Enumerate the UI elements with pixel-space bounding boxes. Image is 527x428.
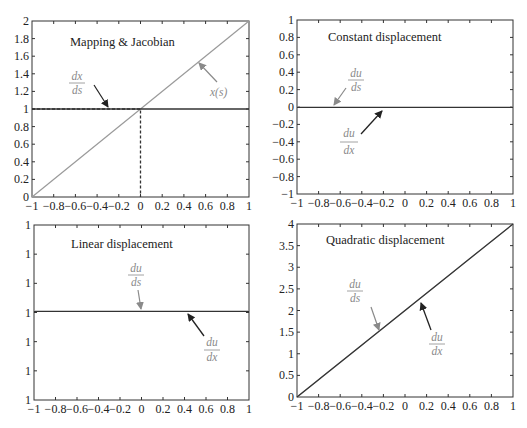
y-tick-label: 1	[25, 306, 31, 320]
y-tick-label: 2	[23, 14, 29, 28]
annotation-dx-bottom: dx	[432, 345, 444, 357]
y-tick-label: 0.4	[14, 155, 29, 169]
y-tick-label: 1.5	[279, 325, 294, 339]
x-tick-label: 0.2	[419, 196, 434, 210]
x-tick-label: −0.8	[308, 196, 330, 210]
x-tick-label: 0	[138, 199, 144, 213]
y-tick-label: 3.5	[279, 239, 294, 253]
y-tick-label: 0.2	[14, 172, 29, 186]
x-tick-label: −0.6	[329, 399, 351, 413]
arrow-du-dx	[421, 303, 431, 330]
x-tick-label: 0	[139, 402, 145, 416]
y-tick-label: 1	[288, 13, 294, 27]
series-du-dx	[297, 224, 513, 397]
y-tick-label: 1.6	[14, 49, 29, 63]
x-tick-label: 0.4	[441, 196, 456, 210]
x-tick-label: 1	[510, 399, 516, 413]
x-tick-label: 0.8	[220, 402, 235, 416]
annotation-ds-bottom: ds	[351, 81, 362, 93]
x-tick-label: 1	[510, 196, 516, 210]
y-tick-label: 1	[25, 335, 31, 349]
annotation-dx-bottom: dx	[207, 351, 219, 363]
y-tick-label: 0	[288, 390, 294, 404]
panel-title: Linear displacement	[71, 237, 173, 251]
y-tick-label: 1	[25, 276, 31, 290]
x-tick-label: −0.8	[308, 399, 330, 413]
annotation-dx-bottom: dx	[344, 144, 356, 156]
x-tick-label: −0.8	[43, 199, 65, 213]
annotation-dx-top: dx	[72, 70, 84, 82]
y-tick-label: 1.8	[14, 32, 29, 46]
x-tick-label: 0.8	[484, 399, 499, 413]
arrow-dx-ds	[94, 85, 108, 107]
x-tick-label: −0.4	[88, 402, 110, 416]
x-tick-label: −0.2	[108, 199, 130, 213]
x-tick-label: −0.6	[66, 402, 88, 416]
x-tick-label: 0.6	[462, 399, 477, 413]
x-tick-labels: −1−0.8−0.6−0.4−0.200.20.40.60.81	[291, 196, 516, 210]
y-tick-label: 4	[288, 217, 294, 231]
x-tick-labels: −1−0.8−0.6−0.4−0.200.20.40.60.81	[28, 402, 252, 416]
y-tick-label: 1	[25, 247, 31, 261]
y-tick-label: 1	[25, 393, 31, 407]
x-tick-label: 0.2	[419, 399, 434, 413]
annotation-du-top-2: du	[343, 127, 355, 139]
x-tick-label: 0.6	[462, 196, 477, 210]
x-tick-label: −0.6	[65, 199, 87, 213]
x-tick-label: 0.2	[155, 199, 170, 213]
y-tick-label: 2.5	[279, 282, 294, 296]
y-tick-label: −0.6	[272, 152, 294, 166]
x-tick-label: 0	[402, 399, 408, 413]
annotation-du-top-2: du	[206, 336, 218, 348]
y-tick-label: 0.5	[279, 368, 294, 382]
x-tick-label: 0.4	[441, 399, 456, 413]
panel-title: Quadratic displacement	[326, 233, 445, 247]
y-tick-labels: 00.511.522.533.54	[279, 217, 294, 404]
y-tick-label: 0.2	[279, 83, 294, 97]
x-tick-label: 1	[246, 402, 252, 416]
y-tick-labels: 1111111	[25, 218, 31, 407]
x-tick-label: 0.4	[176, 199, 191, 213]
plot-frame	[34, 225, 249, 400]
panel-title: Constant displacement	[328, 30, 442, 44]
x-tick-label: −0.4	[351, 196, 373, 210]
y-tick-label: 0	[288, 100, 294, 114]
x-tick-label: 0.8	[220, 199, 235, 213]
y-tick-label: −1	[281, 187, 294, 201]
x-tick-label: 1	[246, 199, 252, 213]
y-tick-label: 2	[288, 304, 294, 318]
x-tick-label: −0.4	[86, 199, 108, 213]
y-tick-label: 1	[25, 364, 31, 378]
arrow-du-ds	[371, 307, 379, 330]
x-tick-label: 0.4	[177, 402, 192, 416]
y-tick-label: 0.8	[279, 30, 294, 44]
y-tick-label: 1	[23, 102, 29, 116]
x-tick-label: −0.6	[329, 196, 351, 210]
y-tick-labels: −1−0.8−0.6−0.4−0.200.20.40.60.81	[272, 13, 294, 201]
y-tick-label: 0.4	[279, 65, 294, 79]
arrow-du-ds	[334, 88, 346, 105]
annotation-x-of-s: x(s)	[209, 86, 227, 99]
x-tick-label: −0.2	[373, 399, 395, 413]
y-tick-label: −0.8	[272, 170, 294, 184]
x-tick-label: −0.4	[351, 399, 373, 413]
annotation-ds-bottom: ds	[350, 292, 361, 304]
y-tick-label: 1.4	[14, 67, 29, 81]
y-tick-label: 0.8	[14, 120, 29, 134]
annotation-du-top-2: du	[431, 331, 443, 343]
panel-constant-displacement: −1−0.8−0.6−0.4−0.200.20.40.60.81 −1−0.8−…	[272, 13, 516, 210]
y-tick-label: 3	[288, 260, 294, 274]
y-tick-label: 1.2	[14, 84, 29, 98]
x-tick-label: −0.2	[109, 402, 131, 416]
arrow-du-dx	[361, 111, 382, 134]
panel-quadratic-displacement: −1−0.8−0.6−0.4−0.200.20.40.60.81 00.511.…	[279, 217, 516, 413]
y-tick-labels: 00.20.40.60.811.21.41.61.82	[14, 14, 29, 204]
arrow-du-dx	[188, 314, 204, 336]
annotation-du-top: du	[130, 262, 142, 274]
x-tick-labels: −1−0.8−0.6−0.4−0.200.20.40.60.81	[26, 199, 252, 213]
x-tick-label: −0.8	[45, 402, 67, 416]
x-tick-label: −0.2	[373, 196, 395, 210]
arrow-x-of-s	[199, 63, 217, 82]
y-tick-label: 0.6	[279, 48, 294, 62]
x-tick-marks	[56, 225, 228, 400]
